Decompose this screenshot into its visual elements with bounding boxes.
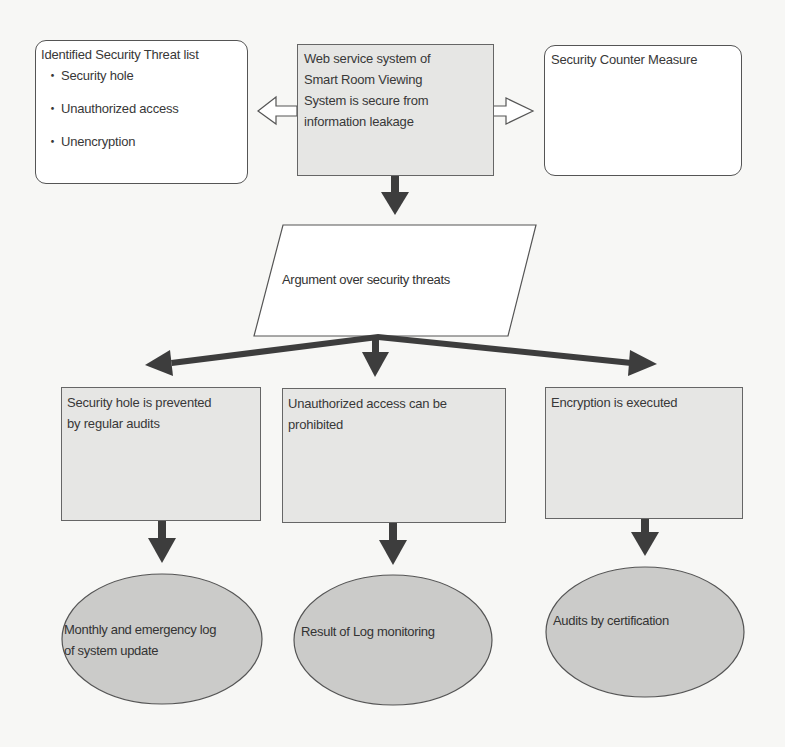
gsn-diagram: Identified Security Threat list ・ Securi… [0,0,785,747]
bullet-icon: ・ [45,98,59,119]
sub-goal-line: Encryption is executed [551,392,737,413]
goal-line: Web service system of [304,48,487,69]
arrow-strategy-to-subgoal-1-head [145,350,173,376]
arrow-goal-to-strategy-head [381,192,409,215]
sub-goal-line: prohibited [288,414,500,435]
sub-goal-line: Unauthorized access can be [288,393,500,414]
threat-item-label: Unencryption [61,131,135,152]
arrow-strategy-to-subgoal-2-shaft [372,337,379,353]
hollow-arrow-right-icon [493,98,533,124]
arrow-subgoal-1-to-evidence-1-head [148,538,176,563]
evidence-line: of system update [64,640,216,661]
counter-measure-context: Security Counter Measure [544,45,742,176]
threat-list-item: ・ Unencryption [41,131,242,152]
counter-measure-title: Security Counter Measure [551,49,735,70]
threat-list: ・ Security hole ・ Unauthorized access ・ … [41,65,242,152]
evidence-line: Monthly and emergency log [64,619,216,640]
threat-list-item: ・ Security hole [41,65,242,86]
arrow-strategy-to-subgoal-3-head [628,350,657,376]
sub-goal-box-1: Security hole is prevented by regular au… [61,387,261,521]
bullet-icon: ・ [45,131,59,152]
arrow-subgoal-3-to-evidence-3-head [631,532,659,556]
arrow-subgoal-3-to-evidence-3-shaft [641,518,649,533]
evidence-line: Result of Log monitoring [301,621,435,642]
evidence-label-3: Audits by certification [553,610,669,631]
goal-line: Smart Room Viewing [304,69,487,90]
sub-goal-box-3: Encryption is executed [545,387,743,519]
sub-goal-line: by regular audits [67,413,255,434]
arrow-strategy-to-subgoal-3-shaft [378,334,632,366]
threat-list-item: ・ Unauthorized access [41,98,242,119]
sub-goal-line: Security hole is prevented [67,392,255,413]
goal-line: information leakage [304,111,487,132]
goal-line: System is secure from [304,90,487,111]
threat-list-context: Identified Security Threat list ・ Securi… [35,40,248,184]
bullet-icon: ・ [45,65,59,86]
evidence-line: Audits by certification [553,610,669,631]
strategy-label: Argument over security threats [282,269,450,290]
threat-list-title: Identified Security Threat list [41,44,242,65]
arrow-subgoal-2-to-evidence-2-head [379,540,407,565]
sub-goal-box-2: Unauthorized access can be prohibited [282,388,506,523]
hollow-arrow-left-icon [258,97,297,124]
arrow-subgoal-1-to-evidence-1-shaft [158,520,166,539]
evidence-ellipse-shape-3 [546,567,744,697]
threat-item-label: Unauthorized access [61,98,179,119]
arrow-goal-to-strategy-shaft [391,175,399,193]
arrow-strategy-to-subgoal-1-shaft [171,334,378,366]
evidence-label-2: Result of Log monitoring [301,621,435,642]
arrow-strategy-to-subgoal-2-head [362,352,389,377]
threat-item-label: Security hole [61,65,134,86]
evidence-label-1: Monthly and emergency log of system upda… [64,619,216,661]
arrow-subgoal-2-to-evidence-2-shaft [389,522,397,541]
top-goal-box: Web service system of Smart Room Viewing… [297,44,494,176]
